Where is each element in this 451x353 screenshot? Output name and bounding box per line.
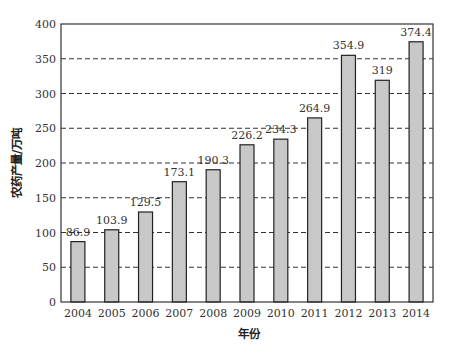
bar — [375, 80, 389, 302]
x-tick-label: 2006 — [132, 307, 160, 320]
bar — [274, 139, 288, 302]
value-label: 374.4 — [400, 26, 432, 39]
value-label: 264.9 — [299, 102, 331, 115]
x-tick-label: 2004 — [64, 307, 92, 320]
x-tick-label: 2013 — [368, 307, 396, 320]
value-label: 173.1 — [164, 166, 196, 179]
x-tick-label: 2014 — [402, 307, 430, 320]
value-label: 190.3 — [197, 154, 229, 167]
x-axis-title: 年份 — [238, 327, 261, 341]
x-tick-label: 2009 — [233, 307, 261, 320]
value-label: 103.9 — [96, 214, 128, 227]
bar — [308, 118, 322, 302]
bar — [341, 55, 355, 302]
bar — [71, 242, 85, 302]
bars — [71, 42, 423, 302]
bar — [206, 170, 220, 302]
value-label: 129.5 — [130, 196, 162, 209]
value-label: 226.2 — [231, 129, 263, 142]
x-tick-label: 2011 — [301, 307, 329, 320]
value-label: 354.9 — [333, 39, 365, 52]
y-tick-label: 200 — [35, 157, 56, 170]
value-label: 234.3 — [265, 123, 297, 136]
x-tick-label: 2008 — [199, 307, 227, 320]
y-tick-label: 400 — [35, 18, 56, 31]
y-tick-label: 50 — [42, 261, 56, 274]
value-label: 86.9 — [66, 226, 91, 239]
x-tick-label: 2007 — [165, 307, 193, 320]
bar — [139, 212, 153, 302]
y-tick-label: 100 — [35, 227, 56, 240]
y-axis-title: 农药产量/万吨 — [10, 127, 24, 199]
x-axis-ticks: 2004200520062007200820092010201120122013… — [64, 307, 430, 320]
y-tick-label: 150 — [35, 192, 56, 205]
y-axis-ticks: 050100150200250300350400 — [35, 18, 56, 309]
y-tick-label: 250 — [35, 122, 56, 135]
bar — [105, 230, 119, 302]
value-label: 319 — [372, 64, 393, 77]
y-tick-label: 0 — [49, 296, 56, 309]
bar — [240, 145, 254, 302]
bar — [409, 42, 423, 302]
y-tick-label: 350 — [35, 53, 56, 66]
x-tick-label: 2005 — [98, 307, 126, 320]
y-tick-label: 300 — [35, 88, 56, 101]
x-tick-label: 2012 — [334, 307, 362, 320]
bar — [172, 182, 186, 302]
x-tick-label: 2010 — [267, 307, 295, 320]
bar-chart: 050100150200250300350400 200420052006200… — [0, 0, 451, 353]
